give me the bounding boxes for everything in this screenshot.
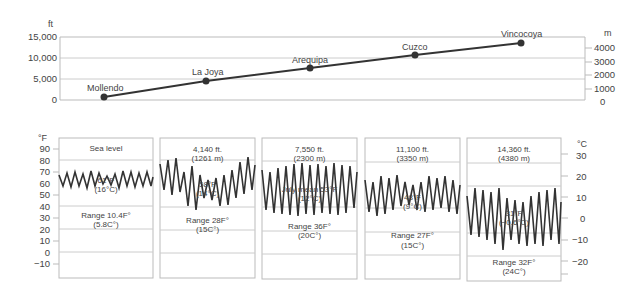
panel-mean: 58°F [160, 180, 255, 189]
panel-mean: 31°F [467, 209, 561, 218]
temp-tick-c: 30 [576, 150, 587, 161]
temp-tick-f: 10 [20, 235, 50, 246]
temp-unit-f: °F [38, 133, 47, 143]
panel-elevation-m: (4380 m) [467, 154, 561, 163]
temp-tick-f: −10 [20, 258, 50, 269]
temp-tick-c: 20 [576, 171, 587, 182]
panel-range-c: (15C°) [365, 241, 460, 250]
panel-range: Range 36F° [262, 222, 357, 231]
panel-mean-c: (−0.6°C) [467, 218, 561, 227]
temp-tick-c: −20 [572, 256, 588, 267]
panel-range: Range 10.4F° [59, 211, 153, 220]
panel-range: Range 28F° [160, 216, 255, 225]
panel-range-c: (24C°) [467, 267, 561, 276]
temp-tick-f: 20 [20, 224, 50, 235]
panel-mean-c: (12°C) [262, 194, 357, 203]
panel-range-c: (15C°) [160, 225, 255, 234]
temp-tick-c: −10 [572, 234, 588, 245]
panel-elevation-m: (3350 m) [365, 154, 460, 163]
panel-elevation-m: (2300 m) [262, 154, 357, 163]
temp-tick-f: 30 [20, 212, 50, 223]
panel-elevation: Sea level [59, 144, 153, 153]
panel-range-c: (20C°) [262, 231, 357, 240]
panel-mean: 61°F [59, 176, 153, 185]
temp-unit-c: °C [577, 139, 587, 149]
panel-elevation: 4,140 ft. [160, 145, 255, 154]
panel-mean: 48°F [365, 193, 460, 202]
panel-elevation-m: (1261 m) [160, 154, 255, 163]
temp-tick-c: 10 [576, 192, 587, 203]
temp-tick-f: 80 [20, 155, 50, 166]
temp-tick-f: 40 [20, 201, 50, 212]
temp-tick-f: 50 [20, 189, 50, 200]
panel-range: Range 32F° [467, 258, 561, 267]
panel-mean: July mean 53°F [262, 185, 357, 194]
temp-tick-f: 0 [20, 247, 50, 258]
panel-elevation: 7,550 ft. [262, 145, 357, 154]
panel-elevation: 14,360 ft. [467, 145, 561, 154]
panel-mean-c: (14°C) [160, 189, 255, 198]
panel-mean-c: (9°C) [365, 202, 460, 211]
temp-tick-c: 0 [580, 213, 585, 224]
temp-tick-f: 70 [20, 166, 50, 177]
panel-mean-c: (16°C) [59, 185, 153, 194]
temp-tick-f: 60 [20, 178, 50, 189]
panel-range-c: (5.8C°) [59, 220, 153, 229]
panel-range: Range 27F° [365, 231, 460, 240]
panel-elevation: 11,100 ft. [365, 145, 460, 154]
temp-tick-f: 90 [20, 143, 50, 154]
